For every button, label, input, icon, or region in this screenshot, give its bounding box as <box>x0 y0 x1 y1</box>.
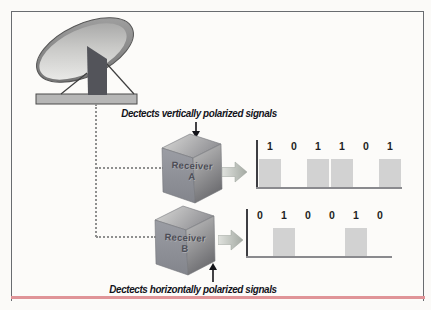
bit-digit: 0 <box>320 209 344 225</box>
bit-slot: 1 <box>330 140 354 187</box>
bit-slot: 0 <box>368 209 392 256</box>
connector-to-receiver-b <box>96 236 156 238</box>
bit-slot: 1 <box>306 140 330 187</box>
signal-block <box>273 228 295 256</box>
bit-slot: 0 <box>248 209 272 256</box>
bit-slot: 0 <box>296 209 320 256</box>
bit-slot: 0 <box>354 140 378 187</box>
receiver-b-label-line2: B <box>157 243 213 256</box>
bit-digit: 0 <box>248 209 272 225</box>
signal-block <box>307 159 329 187</box>
bitstream-plot-b: 010010 <box>240 209 394 259</box>
bitstream-plot-a: 101101 <box>250 140 404 190</box>
receiver-b-label: Receiver B <box>157 232 214 256</box>
dish-base <box>36 94 137 104</box>
bit-slot: 1 <box>344 209 368 256</box>
bit-slot: 0 <box>320 209 344 256</box>
signal-block <box>259 159 281 187</box>
accent-rule <box>11 296 425 299</box>
annotation-vertical-polarization: Dectects vertically polarized signals <box>121 107 277 119</box>
bit-digit: 1 <box>306 140 330 156</box>
connector-vertical <box>95 104 97 237</box>
bit-digit: 0 <box>296 209 320 225</box>
satellite-dish-icon <box>30 12 142 107</box>
bit-slot: 1 <box>378 140 402 187</box>
bit-digit: 1 <box>344 209 368 225</box>
bit-digit: 0 <box>282 140 306 156</box>
plot-a-baseline <box>256 187 402 189</box>
bit-slot: 0 <box>282 140 306 187</box>
plot-b-baseline <box>246 256 392 258</box>
annotation-horizontal-polarization: Dectects horizontally polarized signals <box>109 283 276 295</box>
bit-digit: 1 <box>272 209 296 225</box>
bit-digit: 1 <box>330 140 354 156</box>
receiver-a-label-line2: A <box>164 171 220 184</box>
dish-strut-right <box>107 64 134 94</box>
connector-to-receiver-a <box>96 167 164 169</box>
bit-slot: 1 <box>258 140 282 187</box>
bit-slot: 1 <box>272 209 296 256</box>
block-arrow-a-icon <box>222 161 248 183</box>
signal-block <box>379 159 401 187</box>
receiver-a-label: Receiver A <box>164 160 221 184</box>
bit-digit: 0 <box>354 140 378 156</box>
signal-block <box>331 159 353 187</box>
bit-digit: 1 <box>258 140 282 156</box>
bit-digit: 1 <box>378 140 402 156</box>
signal-block <box>345 228 367 256</box>
bit-digit: 0 <box>368 209 392 225</box>
